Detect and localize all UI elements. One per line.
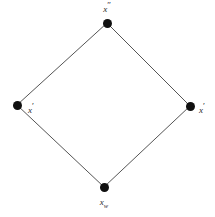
node-label-left-prime: ′ bbox=[32, 101, 34, 111]
edge-bottom-right bbox=[104, 106, 190, 187]
node-right bbox=[186, 102, 195, 111]
edge-top-right bbox=[107, 23, 190, 106]
node-label-right: x′ bbox=[199, 102, 205, 115]
node-label-bottom: xw bbox=[100, 198, 108, 209]
node-label-top: x″ bbox=[103, 1, 111, 14]
node-left bbox=[13, 101, 22, 110]
edge-left-top bbox=[17, 23, 107, 105]
node-label-top-prime: ″ bbox=[107, 0, 111, 10]
node-top bbox=[103, 19, 112, 28]
node-label-left: x′ bbox=[28, 102, 34, 115]
node-bottom bbox=[100, 183, 109, 192]
lattice-diagram: x″ x′ x′ xw bbox=[0, 0, 215, 217]
edge-left-bottom bbox=[17, 105, 104, 187]
node-label-right-prime: ′ bbox=[203, 101, 205, 111]
node-label-bottom-sub: w bbox=[104, 202, 108, 209]
